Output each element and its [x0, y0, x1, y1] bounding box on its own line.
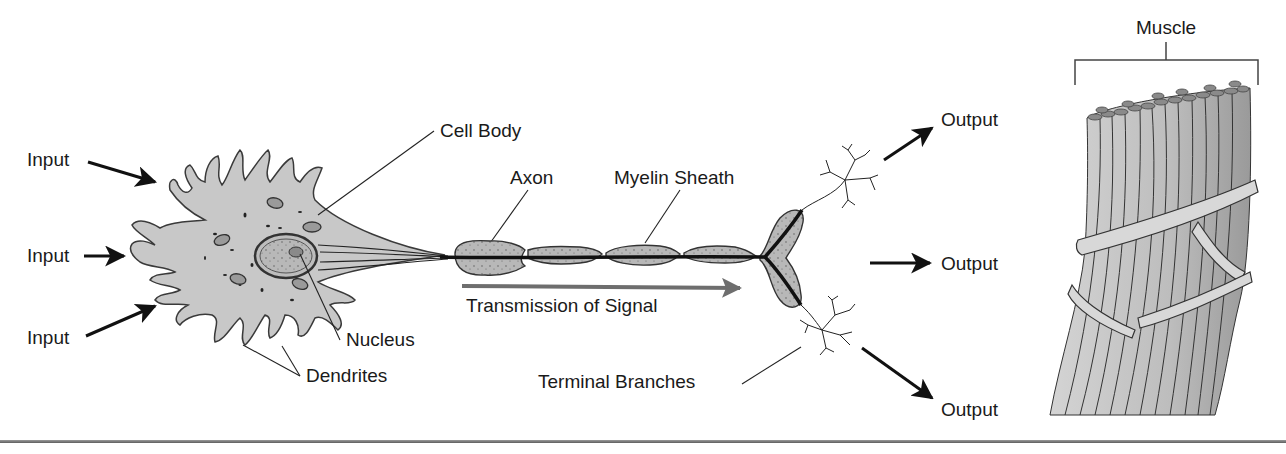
transmission-arrow	[462, 286, 740, 288]
output-label-middle: Output	[941, 254, 998, 274]
output-label-top: Output	[941, 110, 998, 130]
transmission-label: Transmission of Signal	[466, 296, 657, 316]
dendrites-label: Dendrites	[306, 366, 387, 386]
input-label-bottom: Input	[27, 328, 69, 348]
muscle-shape	[1050, 42, 1258, 415]
axon-shape	[440, 210, 803, 307]
output-arrow-bottom	[862, 348, 932, 398]
input-arrow-bottom	[86, 306, 155, 336]
input-arrow-top	[88, 162, 155, 182]
cell-body-shape	[130, 150, 448, 345]
output-label-bottom: Output	[941, 400, 998, 420]
axon-label: Axon	[510, 168, 553, 188]
cell-body-label: Cell Body	[440, 121, 521, 141]
bottom-divider	[0, 440, 1286, 443]
input-label-top: Input	[27, 150, 69, 170]
myelin-sheath-label: Myelin Sheath	[614, 168, 734, 188]
nucleus-label: Nucleus	[346, 330, 415, 350]
output-arrows	[862, 128, 932, 398]
muscle-label: Muscle	[1136, 18, 1196, 38]
terminal-branches-label: Terminal Branches	[538, 372, 695, 392]
output-arrow-top	[884, 128, 932, 160]
terminal-branches	[800, 144, 878, 355]
input-label-middle: Input	[27, 246, 69, 266]
